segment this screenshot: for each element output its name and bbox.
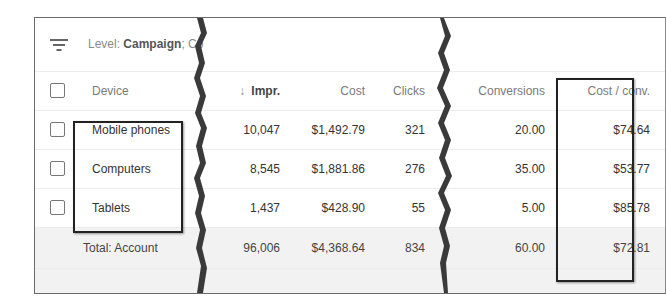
cost-cell: $428.90	[305, 201, 365, 215]
torn-edge-divider	[185, 18, 215, 293]
conversions-cell: 20.00	[465, 123, 545, 137]
column-header-device[interactable]: Device	[92, 84, 129, 98]
row-checkbox[interactable]	[50, 122, 65, 137]
clicks-cell: 55	[375, 201, 425, 215]
total-impr: 96,006	[225, 241, 280, 255]
column-header-clicks[interactable]: Clicks	[375, 84, 425, 98]
report-table-frame: Level: Campaign; Co Device ↓Impr. Cost C…	[34, 17, 666, 294]
total-clicks: 834	[375, 241, 425, 255]
impr-cell: 10,047	[225, 123, 280, 137]
highlight-box-devices	[73, 121, 183, 233]
highlight-box-cost-per-conv	[556, 78, 634, 282]
total-conversions: 60.00	[465, 241, 545, 255]
impr-cell: 8,545	[225, 162, 280, 176]
row-checkbox[interactable]	[50, 161, 65, 176]
impr-cell: 1,437	[225, 201, 280, 215]
clicks-cell: 321	[375, 123, 425, 137]
conversions-cell: 5.00	[465, 201, 545, 215]
filter-icon[interactable]	[50, 39, 68, 51]
select-all-checkbox[interactable]	[50, 83, 65, 98]
total-cost: $4,368.64	[305, 241, 365, 255]
column-header-impr[interactable]: ↓Impr.	[225, 84, 280, 98]
filter-bar[interactable]: Level: Campaign; Co	[35, 18, 665, 72]
total-label: Total: Account	[83, 241, 158, 255]
impr-label: Impr.	[251, 84, 280, 98]
torn-edge-divider	[430, 18, 460, 293]
column-header-conversions[interactable]: Conversions	[465, 84, 545, 98]
column-header-cost[interactable]: Cost	[305, 84, 365, 98]
conversions-cell: 35.00	[465, 162, 545, 176]
filter-prefix: Level:	[88, 37, 123, 51]
clicks-cell: 276	[375, 162, 425, 176]
sort-descending-icon: ↓	[239, 84, 245, 98]
row-checkbox[interactable]	[50, 200, 65, 215]
cost-cell: $1,492.79	[305, 123, 365, 137]
filter-level-value: Campaign	[123, 37, 181, 51]
cost-cell: $1,881.86	[305, 162, 365, 176]
